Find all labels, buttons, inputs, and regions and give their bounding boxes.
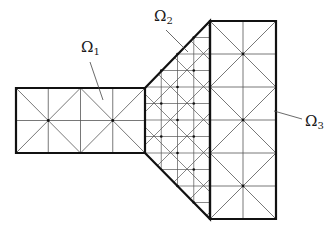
omega3-symbol: Ω bbox=[305, 112, 317, 130]
omega2-leader bbox=[166, 30, 188, 52]
omega3-label: Ω3 bbox=[305, 114, 324, 131]
omega1-label: Ω1 bbox=[81, 40, 100, 57]
omega2-label: Ω2 bbox=[154, 9, 173, 26]
omega3-subscript: 3 bbox=[317, 120, 323, 131]
mesh-diagram bbox=[0, 0, 335, 231]
omega3-leader bbox=[274, 111, 302, 119]
leader-lines bbox=[90, 30, 302, 119]
omega1-mesh bbox=[16, 88, 145, 153]
omega2-subscript: 2 bbox=[166, 15, 172, 26]
omega2-mesh bbox=[100, 0, 300, 231]
omega1-symbol: Ω bbox=[81, 38, 93, 56]
omega1-subscript: 1 bbox=[93, 46, 99, 57]
omega1-leader bbox=[90, 62, 103, 100]
omega2-symbol: Ω bbox=[154, 7, 166, 25]
